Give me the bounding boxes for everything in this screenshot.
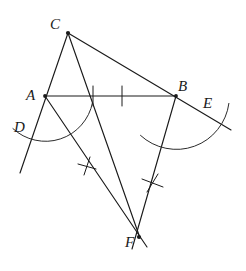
point-label-d: D: [13, 119, 25, 135]
angle-bisector-from-a-to-f: [45, 96, 147, 247]
point-label-e: E: [202, 95, 212, 111]
angle-bisector-from-b-to-f: [132, 96, 176, 249]
point-labels: C A B D E F: [13, 16, 212, 250]
arc-centered-at-b: [141, 103, 229, 149]
point-label-a: A: [25, 87, 36, 103]
geometry-canvas: C A B D E F: [0, 0, 246, 271]
point-label-f: F: [124, 234, 135, 250]
vertex-dot-f: [137, 235, 141, 239]
vertex-dot-c: [66, 31, 70, 35]
point-label-b: B: [178, 78, 187, 94]
geometry-diagram: C A B D E F: [0, 0, 246, 271]
line-c-through-b-to-e-extended: [68, 33, 231, 130]
segment-c-to-f: [68, 33, 140, 238]
line-c-through-a-to-d-extended: [20, 33, 68, 173]
point-label-c: C: [50, 16, 61, 32]
vertex-dot-a: [43, 94, 47, 98]
vertex-dots: [43, 31, 178, 239]
cross-tick-on-bisector-a: [78, 157, 96, 175]
tick-marks: [78, 86, 163, 192]
vertex-dot-b: [174, 94, 178, 98]
